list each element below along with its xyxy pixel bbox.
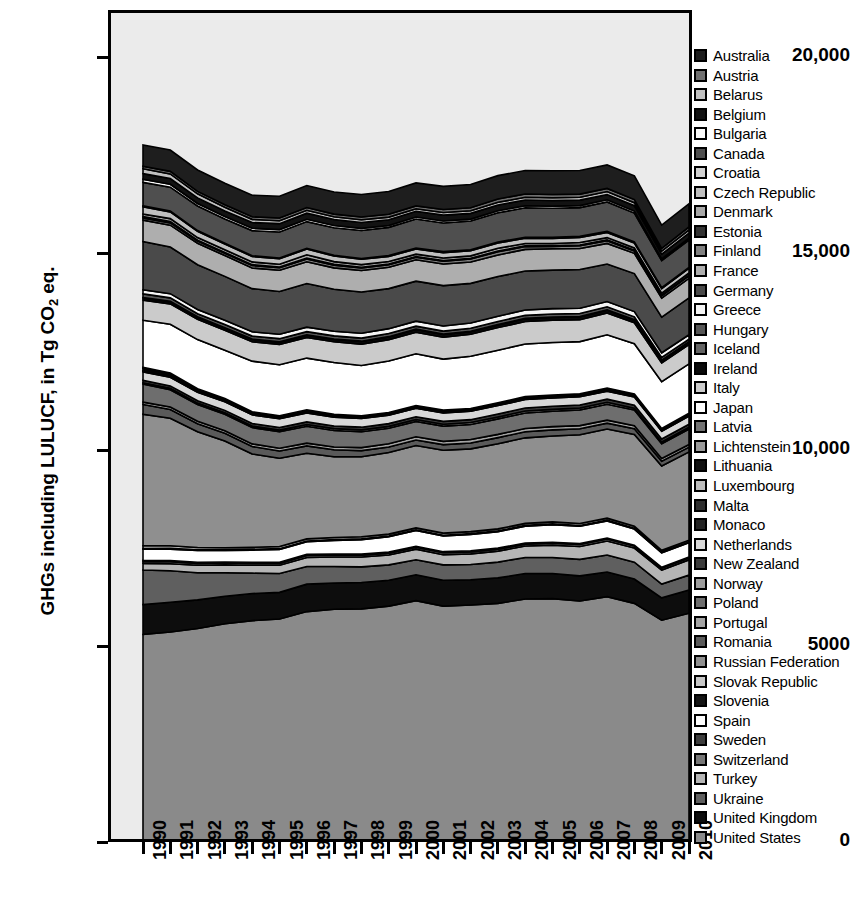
legend-item-label: France (713, 261, 759, 280)
legend-color-swatch (694, 342, 707, 355)
y-axis-tick-mark (97, 56, 108, 59)
legend-color-swatch (694, 205, 707, 218)
legend-item-label: Switzerland (713, 750, 788, 769)
legend-item-label: Netherlands (713, 535, 792, 554)
legend-item-label: Portugal (713, 613, 767, 632)
x-axis-tick-mark (333, 842, 336, 854)
chart-page: GHGs including LULUCF, in Tg CO2 eq. 20,… (0, 0, 850, 913)
legend-color-swatch (694, 733, 707, 746)
legend-item-label: Austria (713, 66, 758, 85)
legend-item-label: Croatia (713, 163, 760, 182)
x-axis-tick-mark (169, 842, 172, 854)
x-axis-tick-mark (469, 842, 472, 854)
y-axis-tick-mark (97, 645, 108, 648)
legend-item-label: Sweden (713, 730, 766, 749)
x-axis-tick-mark (524, 842, 527, 854)
x-axis-tick-mark (660, 842, 663, 854)
legend-item-label: Finland (713, 241, 761, 260)
legend-item-label: Estonia (713, 222, 762, 241)
x-axis-tick-mark (442, 842, 445, 854)
legend-item-label: United Kingdom (713, 808, 817, 827)
legend-color-swatch (694, 264, 707, 277)
legend-color-swatch (694, 577, 707, 590)
legend-color-swatch (694, 792, 707, 805)
x-axis-tick-mark (606, 842, 609, 854)
y-axis-title-main: GHGs including LULUCF, in Tg CO (37, 306, 58, 615)
legend-color-swatch (694, 186, 707, 199)
legend-item-label: Canada (713, 144, 764, 163)
legend-color-swatch (694, 303, 707, 316)
x-axis-tick-mark (360, 842, 363, 854)
x-axis-tick-mark (196, 842, 199, 854)
legend-color-swatch (694, 655, 707, 668)
legend-color-swatch (694, 616, 707, 629)
legend-item-label: Denmark (713, 202, 772, 221)
x-axis-tick-mark (578, 842, 581, 854)
legend-item-label: Ireland (713, 359, 757, 378)
legend-color-swatch (694, 323, 707, 336)
x-axis-tick-mark (688, 842, 691, 854)
legend-item-label: Malta (713, 496, 749, 515)
legend-color-swatch (694, 127, 707, 140)
legend-item-label: Bulgaria (713, 124, 766, 143)
legend-color-swatch (694, 499, 707, 512)
legend-color-swatch (694, 635, 707, 648)
legend-color-swatch (694, 714, 707, 727)
stacked-area-plot (111, 13, 689, 839)
plot-area (108, 10, 692, 842)
x-axis-tick-mark (415, 842, 418, 854)
x-axis-tick-mark (142, 842, 145, 854)
x-axis-tick-mark (496, 842, 499, 854)
legend-color-swatch (694, 244, 707, 257)
y-axis-tick-label: 20,000 (758, 44, 850, 66)
legend-color-swatch (694, 108, 707, 121)
legend-color-swatch (694, 225, 707, 238)
legend-item-label: Ukraine (713, 789, 763, 808)
legend-color-swatch (694, 753, 707, 766)
y-axis-tick-mark (97, 841, 108, 844)
legend-item-label: Belgium (713, 105, 766, 124)
legend-item-label: Greece (713, 300, 761, 319)
legend-item-label: Spain (713, 711, 750, 730)
y-axis-tick-mark (97, 449, 108, 452)
x-axis-tick-mark (278, 842, 281, 854)
legend-color-swatch (694, 459, 707, 472)
legend-item-label: Italy (713, 378, 740, 397)
y-axis-title: GHGs including LULUCF, in Tg CO2 eq. (37, 221, 59, 661)
legend-item-label: Slovak Republic (713, 672, 818, 691)
legend-color-swatch (694, 401, 707, 414)
legend-item-label: Lithuania (713, 456, 772, 475)
legend-item-label: Czech Republic (713, 183, 815, 202)
legend-item-label: Slovenia (713, 691, 769, 710)
y-axis-tick-mark (97, 252, 108, 255)
legend-color-swatch (694, 147, 707, 160)
x-axis-tick-mark (223, 842, 226, 854)
legend-color-swatch (694, 694, 707, 707)
legend-color-swatch (694, 284, 707, 297)
legend-color-swatch (694, 479, 707, 492)
legend-color-swatch (694, 362, 707, 375)
legend-item-label: Japan (713, 398, 753, 417)
legend-color-swatch (694, 166, 707, 179)
legend-item-label: Romania (713, 632, 772, 651)
legend-color-swatch (694, 518, 707, 531)
legend-item-label: Turkey (713, 769, 757, 788)
legend-color-swatch (694, 675, 707, 688)
legend-item-label: Hungary (713, 320, 768, 339)
legend-color-swatch (694, 440, 707, 453)
legend-item-label: Poland (713, 593, 759, 612)
legend-item-label: Monaco (713, 515, 765, 534)
legend-item-label: United States (713, 828, 800, 847)
legend-item-label: Russian Federation (713, 652, 839, 671)
legend-color-swatch (694, 49, 707, 62)
legend-color-swatch (694, 88, 707, 101)
legend-color-swatch (694, 831, 707, 844)
legend-item-label: New Zealand (713, 554, 799, 573)
legend-item-label: Australia (713, 46, 770, 65)
legend-item-label: Latvia (713, 417, 752, 436)
legend-item-label: Germany (713, 281, 773, 300)
legend-color-swatch (694, 69, 707, 82)
legend-item-label: Lichtenstein (713, 437, 791, 456)
legend-color-swatch (694, 596, 707, 609)
legend-item-label: Luxembourg (713, 476, 794, 495)
